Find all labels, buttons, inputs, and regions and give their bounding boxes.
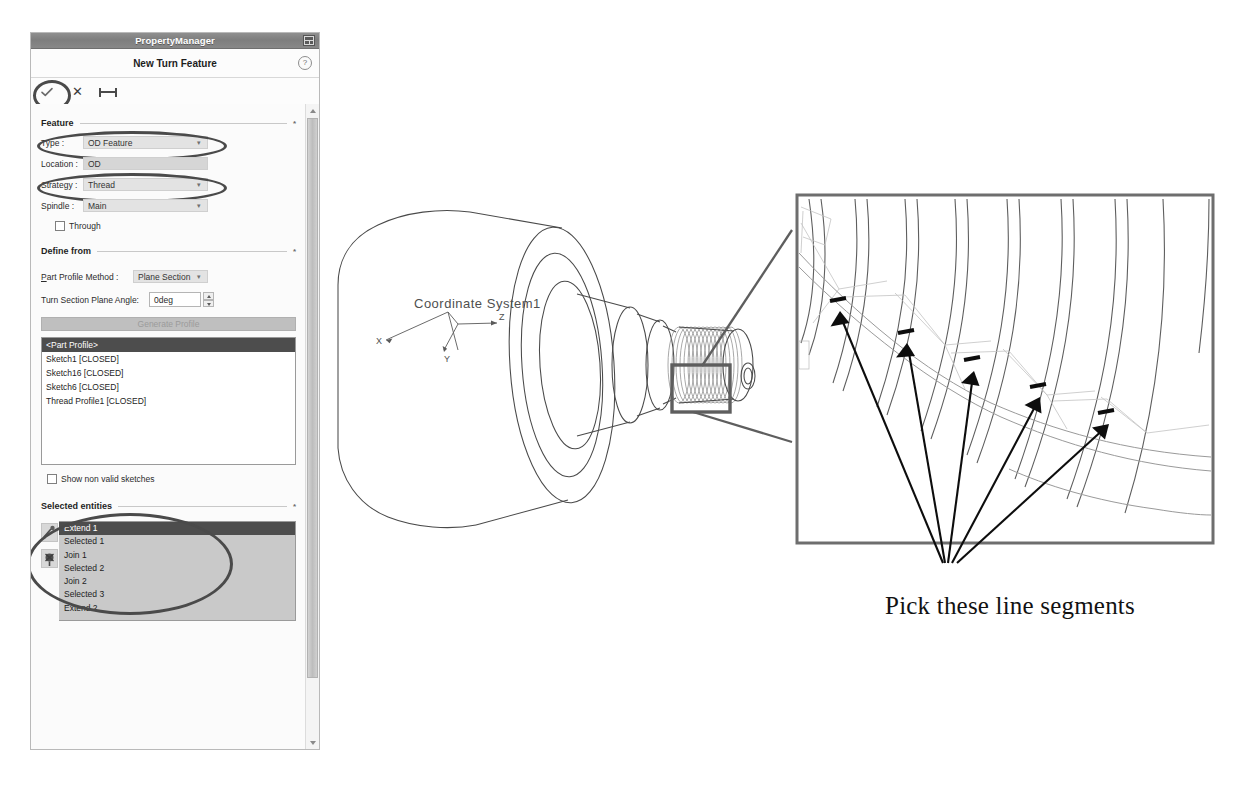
type-combobox[interactable]: OD Feature ▾ [83,136,208,149]
checkbox-box[interactable] [55,221,65,231]
section-rule [80,123,287,124]
section-header-selected-entities[interactable]: Selected entities * [41,501,296,511]
label-plane-angle: Turn Section Plane Angle: [41,295,149,305]
axis-label-z: Z [499,312,505,322]
plane-angle-input[interactable]: 0deg [149,292,201,307]
spindle-value: Main [88,201,106,211]
plane-angle-value: 0deg [154,295,173,305]
stepper-up[interactable] [203,292,214,300]
strategy-value: Thread [88,180,115,190]
list-item[interactable]: Thread Profile1 [CLOSED] [42,394,295,408]
chevron-down-icon[interactable]: ▾ [193,200,205,211]
strategy-combobox[interactable]: Thread ▾ [83,178,208,191]
selected-entities-tools [41,521,59,621]
list-item[interactable]: Join 1 [59,549,295,562]
close-x-icon[interactable]: ✕ [69,84,85,100]
label-text: art Profile Method : [47,272,119,282]
cad-model-wireframe: Z Y X Coordinate System1 [330,190,830,570]
section-header-define-from[interactable]: Define from * [41,246,296,256]
list-item[interactable]: Sketch6 [CLOSED] [42,380,295,394]
list-item[interactable]: Sketch1 [CLOSED] [42,352,295,366]
feature-header: New Turn Feature ? [31,49,319,78]
plane-angle-stepper[interactable] [203,292,214,307]
annotation-caption: Pick these line segments [795,592,1225,620]
generate-profile-label: Generate Profile [138,319,200,329]
detail-view-graphics [795,193,1215,555]
coordinate-system-label: Coordinate System1 [414,296,541,311]
label-type: Type : [41,138,83,148]
list-item[interactable]: Selected 2 [59,562,295,575]
section-collapse-icon[interactable]: * [293,502,296,511]
axis-label-y: Y [444,354,450,364]
label-location: Location : [41,159,83,169]
extend-tool-icon[interactable] [41,523,58,542]
detail-zoom-view[interactable] [795,193,1215,555]
row-spindle: Spindle : Main ▾ [41,199,296,212]
through-checkbox[interactable]: Through [55,221,296,231]
page-title: New Turn Feature [133,58,217,69]
delete-tool-icon[interactable] [41,549,58,568]
property-manager-titlebar: PropertyManager [31,33,319,49]
panel-scrollbar[interactable] [305,104,319,749]
list-item[interactable]: Extend 2 [59,602,295,615]
window-grid-icon[interactable] [303,35,315,46]
label-spindle: Spindle : [41,201,83,211]
scroll-thumb[interactable] [307,118,318,678]
scroll-down-arrow[interactable] [306,736,319,749]
axis-label-x: X [376,336,382,346]
section-header-feature[interactable]: Feature * [41,118,296,128]
pin-icon[interactable] [99,84,117,100]
label-part-profile-method: Part Profile Method : [41,272,133,282]
generate-profile-button: Generate Profile [41,317,296,331]
selected-entities-listbox[interactable]: Extend 1 Selected 1 Join 1 Selected 2 Jo… [59,521,296,621]
section-rule [97,251,287,252]
help-icon[interactable]: ? [298,56,312,70]
stepper-down[interactable] [203,300,214,308]
show-non-valid-sketches-checkbox[interactable]: Show non valid sketches [47,474,296,484]
property-manager-body: Feature * Type : OD Feature ▾ Location :… [31,104,319,749]
row-type: Type : OD Feature ▾ [41,136,296,149]
section-collapse-icon[interactable]: * [293,119,296,128]
property-manager-title: PropertyManager [135,35,215,46]
show-non-valid-sketches-label: Show non valid sketches [61,474,155,484]
list-item[interactable]: <Part Profile> [42,338,295,352]
property-manager-toolbar: ✕ [31,78,319,107]
profile-listbox[interactable]: <Part Profile> Sketch1 [CLOSED] Sketch16… [41,337,296,465]
checkmark-icon[interactable] [39,84,55,100]
row-plane-angle: Turn Section Plane Angle: 0deg [41,292,296,307]
part-profile-method-value: Plane Section [138,272,190,282]
detail-callout-box [672,365,730,412]
list-item[interactable]: Extend 1 [59,522,295,535]
cad-model-viewport[interactable]: Z Y X Coordinate System1 [330,190,830,570]
selected-entities-area: Extend 1 Selected 1 Join 1 Selected 2 Jo… [41,521,296,621]
type-value: OD Feature [88,138,132,148]
label-strategy: Strategy : [41,180,83,190]
row-location: Location : OD [41,157,296,170]
chevron-down-icon[interactable]: ▾ [193,137,205,148]
property-manager-panel: PropertyManager New Turn Feature ? ✕ Fea… [30,32,320,750]
location-field: OD [83,157,208,170]
section-title-selected-entities: Selected entities [41,501,112,511]
spindle-combobox[interactable]: Main ▾ [83,199,208,212]
coordinate-system-triad: Z Y X Coordinate System1 [376,296,541,364]
list-item[interactable]: Sketch16 [CLOSED] [42,366,295,380]
row-strategy: Strategy : Thread ▾ [41,178,296,191]
section-title-feature: Feature [41,118,74,128]
part-profile-method-combobox[interactable]: Plane Section ▾ [133,270,208,283]
row-part-profile-method: Part Profile Method : Plane Section ▾ [41,270,296,283]
scroll-up-arrow[interactable] [306,104,319,117]
section-collapse-icon[interactable]: * [293,247,296,256]
list-item[interactable]: Selected 1 [59,535,295,548]
chevron-down-icon[interactable]: ▾ [193,271,205,282]
through-label: Through [69,221,101,231]
location-value: OD [88,159,101,169]
section-rule [118,506,287,507]
section-title-define-from: Define from [41,246,91,256]
checkbox-box[interactable] [47,474,57,484]
list-item[interactable]: Selected 3 [59,588,295,601]
list-item[interactable]: Join 2 [59,575,295,588]
chevron-down-icon[interactable]: ▾ [193,179,205,190]
